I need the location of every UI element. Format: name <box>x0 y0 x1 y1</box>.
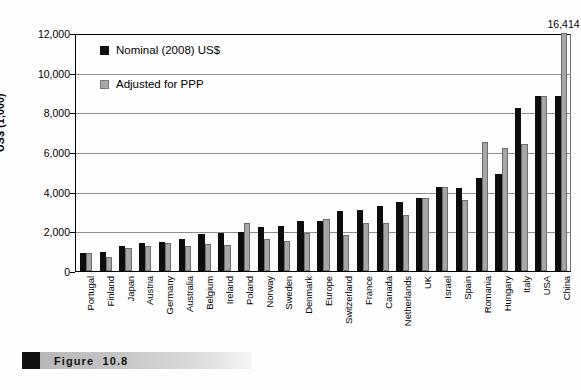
bar-ppp-belgium <box>205 244 211 271</box>
bar-group-poland <box>234 34 254 271</box>
y-axis-title: US$ (1,000) <box>0 93 6 152</box>
caption-label: Figure <box>54 355 94 367</box>
caption-text: Figure 10.8 <box>54 355 128 367</box>
value-label-china: 16,414 <box>548 18 580 30</box>
y-tick-8000: 8,000 <box>24 108 70 118</box>
bar-ppp-israel <box>442 187 448 271</box>
bar-group-hungary <box>492 34 512 271</box>
x-tick-italy: Italy <box>512 276 532 338</box>
y-tickmark-0 <box>70 272 75 273</box>
bar-group-usa <box>531 34 551 271</box>
y-tick-6000: 6,000 <box>24 148 70 158</box>
bar-ppp-romania <box>482 142 488 271</box>
bar-ppp-portugal <box>86 253 92 271</box>
chart-legend: Nominal (2008) US$ Adjusted for PPP <box>100 44 220 112</box>
y-tick-12000: 12,000 <box>24 29 70 39</box>
legend-label-nominal: Nominal (2008) US$ <box>116 44 220 56</box>
x-tick-china: China <box>551 276 571 338</box>
bar-group-spain <box>452 34 472 271</box>
x-tick-netherlands: Netherlands <box>393 276 413 338</box>
bar-ppp-switzerland <box>343 235 349 271</box>
y-tick-2000: 2,000 <box>24 227 70 237</box>
bar-ppp-australia <box>185 246 191 271</box>
bar-group-france <box>353 34 373 271</box>
bar-ppp-norway <box>264 239 270 271</box>
x-tick-usa: USA <box>531 276 551 338</box>
bar-group-portugal <box>76 34 96 271</box>
x-tick-norway: Norway <box>254 276 274 338</box>
x-tick-belgium: Belgium <box>194 276 214 338</box>
bar-ppp-spain <box>462 200 468 271</box>
x-tick-austria: Austria <box>135 276 155 338</box>
x-tick-denmark: Denmark <box>293 276 313 338</box>
bar-ppp-hungary <box>502 148 508 271</box>
bar-ppp-netherlands <box>403 215 409 271</box>
bar-group-switzerland <box>333 34 353 271</box>
bar-ppp-italy <box>521 144 527 271</box>
x-axis-tick-labels: PortugalFinlandJapanAustriaGermanyAustra… <box>75 276 571 338</box>
legend-item-nominal: Nominal (2008) US$ <box>100 44 220 56</box>
bar-ppp-uk <box>422 198 428 271</box>
x-tick-germany: Germany <box>154 276 174 338</box>
chart-plot-area: US$ (1,000) 0 2,000 4,000 6,000 8,000 10… <box>0 0 581 340</box>
bar-group-sweden <box>274 34 294 271</box>
x-tick-finland: Finland <box>95 276 115 338</box>
bar-group-netherlands <box>393 34 413 271</box>
bar-ppp-austria <box>145 246 151 271</box>
bar-ppp-denmark <box>304 233 310 271</box>
bar-ppp-poland <box>244 223 250 271</box>
x-tick-israel: Israel <box>432 276 452 338</box>
legend-swatch-ppp-icon <box>100 80 109 89</box>
y-tick-0: 0 <box>24 267 70 277</box>
caption-bullet-icon <box>22 352 40 369</box>
x-tick-poland: Poland <box>234 276 254 338</box>
x-tick-japan: Japan <box>115 276 135 338</box>
legend-item-ppp: Adjusted for PPP <box>100 78 220 90</box>
bar-group-israel <box>432 34 452 271</box>
x-tick-romania: Romania <box>472 276 492 338</box>
bar-group-china: 16,414 <box>551 34 571 271</box>
legend-swatch-nominal-icon <box>100 46 109 55</box>
bar-ppp-china <box>561 33 567 271</box>
bar-ppp-sweden <box>284 241 290 271</box>
bar-ppp-finland <box>106 257 112 271</box>
bar-ppp-germany <box>165 243 171 271</box>
bar-ppp-ireland <box>224 245 230 271</box>
x-tick-canada: Canada <box>373 276 393 338</box>
x-tick-portugal: Portugal <box>75 276 95 338</box>
x-tick-europe: Europe <box>313 276 333 338</box>
x-tick-australia: Australia <box>174 276 194 338</box>
figure-container: US$ (1,000) 0 2,000 4,000 6,000 8,000 10… <box>0 0 581 390</box>
bar-ppp-usa <box>541 96 547 271</box>
y-axis-tick-labels: 0 2,000 4,000 6,000 8,000 10,000 12,000 <box>24 0 70 290</box>
x-tick-switzerland: Switzerland <box>333 276 353 338</box>
x-tick-ireland: Ireland <box>214 276 234 338</box>
bar-group-norway <box>254 34 274 271</box>
x-tick-uk: UK <box>412 276 432 338</box>
y-tick-10000: 10,000 <box>24 69 70 79</box>
bar-group-italy <box>512 34 532 271</box>
bar-group-europe <box>314 34 334 271</box>
x-tick-label: China <box>561 276 572 300</box>
y-tick-4000: 4,000 <box>24 188 70 198</box>
bar-ppp-europe <box>323 219 329 271</box>
caption-number: 10.8 <box>103 355 129 367</box>
bar-group-denmark <box>294 34 314 271</box>
bar-group-uk <box>413 34 433 271</box>
x-tick-spain: Spain <box>452 276 472 338</box>
figure-caption: Figure 10.8 <box>22 352 252 369</box>
bar-group-romania <box>472 34 492 271</box>
legend-label-ppp: Adjusted for PPP <box>116 78 204 90</box>
x-tick-france: France <box>353 276 373 338</box>
bar-group-canada <box>373 34 393 271</box>
bar-ppp-canada <box>383 223 389 271</box>
bar-ppp-japan <box>125 248 131 271</box>
x-tick-sweden: Sweden <box>273 276 293 338</box>
bar-ppp-france <box>363 223 369 271</box>
x-tick-hungary: Hungary <box>492 276 512 338</box>
